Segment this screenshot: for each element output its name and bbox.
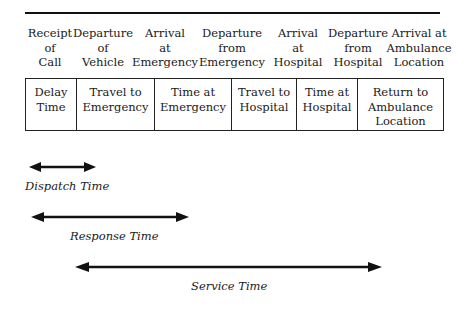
service-time-arrow-icon	[75, 262, 382, 272]
response-time-label: Response Time	[70, 229, 158, 243]
response-time-arrow-icon	[31, 212, 189, 222]
service-time-label: Service Time	[191, 279, 267, 293]
dispatch-time-label: Dispatch Time	[25, 179, 109, 193]
dispatch-time-arrow-icon	[29, 162, 96, 172]
span-arrows	[0, 0, 467, 313]
